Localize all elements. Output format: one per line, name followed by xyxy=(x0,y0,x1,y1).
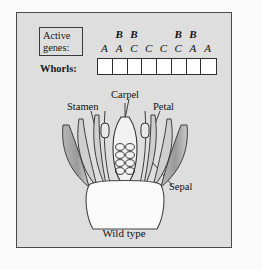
whorls-label: Whorls: xyxy=(40,63,77,74)
gene-letter: C xyxy=(156,41,171,55)
carpel-group xyxy=(113,103,137,185)
active-genes-label-line2: genes: xyxy=(43,42,82,54)
figure-caption: Wild type xyxy=(17,227,231,239)
figure-frame: Active genes: Whorls: B B B B xyxy=(16,12,232,248)
whorl-cell xyxy=(98,59,113,74)
anther-left xyxy=(101,123,109,138)
active-genes-label-box: Active genes: xyxy=(39,27,83,56)
gene-letter xyxy=(200,27,215,41)
gene-letter: B xyxy=(127,27,142,41)
whorl-cell xyxy=(113,59,128,74)
gene-letter: B xyxy=(171,27,186,41)
carpel-ovary xyxy=(113,117,137,185)
gene-letter xyxy=(156,27,171,41)
gene-letter: B xyxy=(112,27,127,41)
gene-letter-grid: B B B B A A C C C C xyxy=(97,27,215,55)
stamen-filament-left xyxy=(104,111,111,187)
gene-row-ac: A A C C C C A A xyxy=(97,41,215,55)
whorl-cell xyxy=(187,59,202,74)
gene-letter: A xyxy=(97,41,112,55)
gene-letter: B xyxy=(186,27,201,41)
gene-letter: C xyxy=(171,41,186,55)
gene-letter: C xyxy=(141,41,156,55)
figure-inner: Active genes: Whorls: B B B B xyxy=(17,13,231,247)
whorl-box-row xyxy=(97,58,217,75)
gene-letter: C xyxy=(127,41,142,55)
whorl-cell xyxy=(128,59,143,74)
stamen-filament-right xyxy=(139,111,146,187)
active-genes-label-line1: Active xyxy=(43,30,82,42)
flower-diagram xyxy=(17,89,233,239)
gene-row-b: B B B B xyxy=(97,27,215,41)
whorl-cell xyxy=(172,59,187,74)
gene-letter xyxy=(141,27,156,41)
figure-container: Active genes: Whorls: B B B B xyxy=(0,0,262,270)
gene-letter: A xyxy=(200,41,215,55)
gene-letter: A xyxy=(112,41,127,55)
gene-letter xyxy=(97,27,112,41)
gene-letter: A xyxy=(186,41,201,55)
whorl-cell xyxy=(142,59,157,74)
receptacle xyxy=(86,181,164,230)
whorl-cell xyxy=(157,59,172,74)
gene-panel: Active genes: Whorls: B B B B xyxy=(39,27,215,85)
anther-right xyxy=(141,123,149,138)
whorl-cell xyxy=(201,59,216,74)
